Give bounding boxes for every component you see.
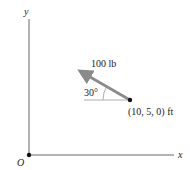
- origin-point: [27, 153, 31, 157]
- origin-label: O: [17, 157, 24, 168]
- x-axis-label: x: [177, 149, 183, 160]
- y-axis-label: y: [23, 6, 29, 17]
- angle-arc: [103, 87, 107, 101]
- point-coordinates-label: (10, 5, 0) ft: [128, 106, 173, 118]
- angle-label: 30°: [84, 87, 98, 98]
- force-magnitude-label: 100 lb: [91, 58, 116, 69]
- application-point: [128, 98, 132, 102]
- force-diagram: y x O 100 lb 30° (10, 5, 0) ft: [0, 0, 190, 170]
